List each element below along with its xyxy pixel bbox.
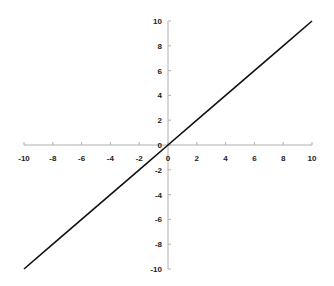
y-tick-label: 2 [158, 116, 163, 125]
y-tick-label: 8 [158, 42, 163, 51]
x-tick-label: 10 [308, 154, 317, 163]
x-tick-label: 2 [195, 154, 200, 163]
x-tick-label: 6 [252, 154, 257, 163]
x-tick-label: -4 [107, 154, 115, 163]
x-tick-label: -10 [18, 154, 30, 163]
y-tick-label: -4 [155, 191, 163, 200]
y-tick-label: 4 [158, 91, 163, 100]
line-chart: -10-8-6-4-2246810-10-8-6-4-202468100 [0, 0, 334, 286]
y-tick-label: -10 [150, 265, 162, 274]
y-tick-label: 0 [158, 141, 163, 150]
y-tick-label: -2 [155, 166, 163, 175]
x-tick-label: -6 [78, 154, 86, 163]
x-tick-label: -2 [136, 154, 144, 163]
y-tick-label: -6 [155, 215, 163, 224]
x-tick-label: 8 [281, 154, 286, 163]
y-tick-label: 6 [158, 67, 163, 76]
x-tick-label: -8 [49, 154, 57, 163]
x-tick-label: 0 [166, 154, 171, 163]
y-tick-label: -8 [155, 240, 163, 249]
x-tick-label: 4 [223, 154, 228, 163]
y-tick-label: 10 [153, 17, 162, 26]
